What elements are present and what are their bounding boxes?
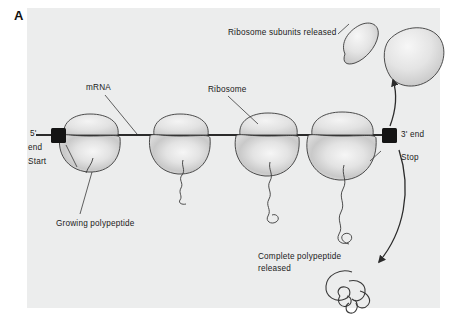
figure-panel-a: A bbox=[0, 0, 452, 315]
label-growing-polypeptide: Growing polypeptide bbox=[56, 218, 134, 229]
stop-codon-marker bbox=[382, 128, 397, 143]
ribosome-1 bbox=[59, 114, 120, 173]
released-small-subunit bbox=[343, 23, 378, 64]
leader-line-subunits-released bbox=[338, 24, 349, 34]
label-start: Start bbox=[28, 156, 46, 167]
released-complete-polypeptide bbox=[326, 271, 370, 313]
ribosome-4 bbox=[307, 112, 376, 244]
label-subunits-released: Ribosome subunits released bbox=[228, 27, 337, 38]
leader-line-growing-polypeptide bbox=[80, 172, 92, 214]
label-three-prime-end: 3' end bbox=[401, 129, 424, 140]
label-stop: Stop bbox=[401, 152, 419, 163]
ribosome-3 bbox=[235, 113, 299, 223]
label-five-prime-end: end bbox=[28, 142, 42, 153]
subunit-release-arrow bbox=[390, 80, 396, 126]
label-five-prime: 5' bbox=[30, 128, 37, 139]
leader-line-ribosome bbox=[228, 96, 258, 124]
label-complete-polypeptide-released: released bbox=[258, 263, 291, 274]
label-ribosome: Ribosome bbox=[208, 84, 246, 95]
polypeptide-release-arrow bbox=[379, 150, 405, 262]
label-mrna: mRNA bbox=[86, 82, 111, 93]
ribosome-2 bbox=[149, 114, 210, 204]
start-codon-marker bbox=[51, 128, 66, 143]
diagram-drawing bbox=[0, 0, 452, 315]
label-complete-polypeptide: Complete polypeptide bbox=[258, 251, 341, 262]
released-large-subunit bbox=[384, 28, 444, 86]
